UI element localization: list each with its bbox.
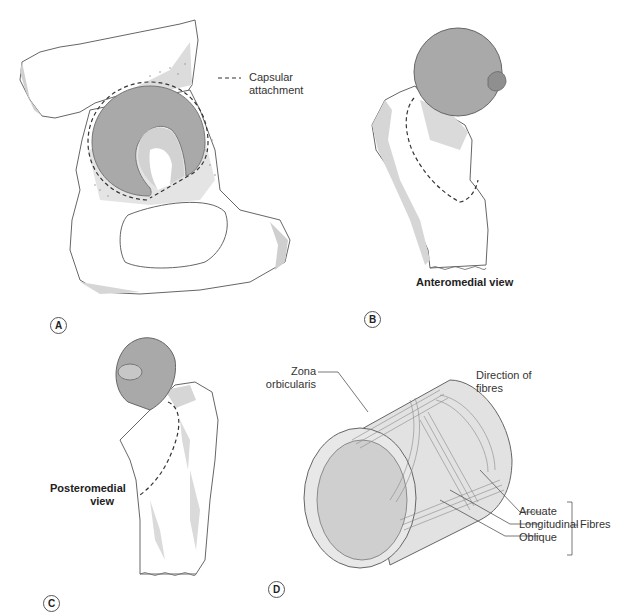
label-fibres-group: Fibres: [580, 518, 611, 531]
panel-label-d: D: [268, 581, 285, 598]
label-arcuate: Arcuate: [519, 505, 557, 518]
label-zona-line1: Zona: [250, 365, 316, 378]
label-oblique: Oblique: [519, 531, 557, 544]
label-direction-line1: Direction of: [476, 369, 532, 382]
label-longitudinal: Longitudinal: [519, 518, 578, 531]
label-zona-line2: orbicularis: [250, 378, 316, 391]
hip-joint-capsule-figure: Capsular attachment A Anteromedial view …: [0, 0, 617, 612]
label-direction-line2: fibres: [476, 382, 503, 395]
